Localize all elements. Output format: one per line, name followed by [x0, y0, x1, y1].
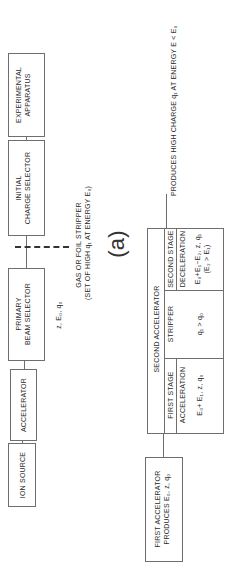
figure-label: (a) — [106, 226, 128, 262]
first-stage-value: E₀+ E₁, z, q₀ — [195, 358, 204, 432]
ion-source-label: ION SOURCE — [18, 450, 27, 500]
first-stage-title: FIRST STAGE — [166, 358, 175, 432]
connector-line — [26, 236, 27, 268]
second-stage-divider — [176, 228, 177, 290]
table-header: SECOND ACCELERATOR — [152, 228, 161, 430]
connector-line — [24, 361, 25, 369]
stripper-title: STRIPPER — [166, 291, 175, 357]
experimental-apparatus-label: EXPERIMENTAL APPARATUS — [14, 62, 32, 128]
output-label: PRODUCES HIGH CHARGE q₁ AT ENERGY E < E₀ — [169, 10, 178, 196]
connector-line — [163, 434, 164, 457]
stripper-label: GAS OR FOIL STRIPPER (SET OF HIGH q₁ AT … — [74, 190, 92, 300]
second-stage-value: E₀+E₁−E₂, z, q₁ (E₂ > E₁) — [193, 229, 211, 289]
accelerator-label: ACCELERATOR — [19, 374, 28, 436]
first-accelerator-label: FIRST ACCELERATOR PRODUCES E₀, z, q₀ — [153, 466, 171, 552]
beam-params-label: z, E₀, q₀ — [54, 298, 63, 332]
first-stage-divider — [176, 358, 177, 434]
stripper-dashed-line — [15, 246, 69, 248]
initial-charge-selector-label: INITIAL CHARGE SELECTOR — [14, 151, 32, 225]
first-stage-process: ACCELERATION — [178, 358, 187, 432]
output-connector-line — [166, 194, 167, 228]
second-stage-title: SECOND STAGE — [166, 229, 175, 289]
second-stage-process: DECELERATION — [178, 229, 187, 289]
stripper-value: q₁ > q₀ — [195, 291, 204, 357]
primary-beam-selector-label: PRIMARY BEAM SELECTOR — [14, 276, 32, 352]
header-divider — [164, 228, 165, 434]
